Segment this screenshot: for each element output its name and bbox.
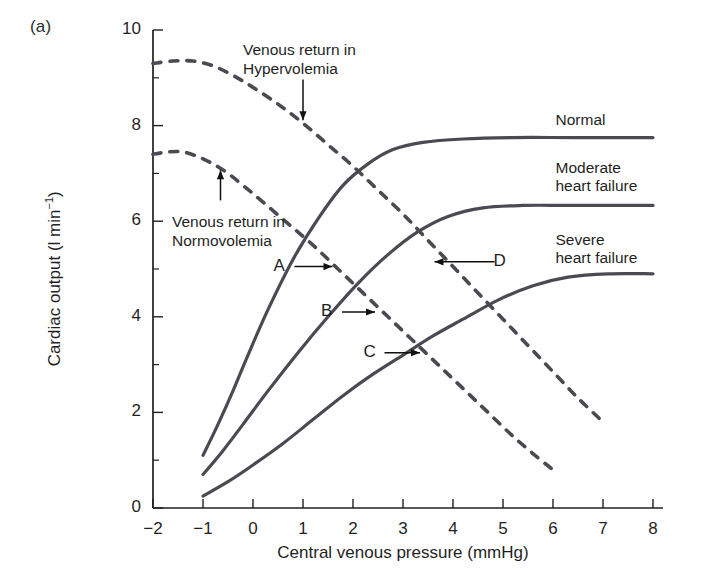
x-tick-label-4: 2: [338, 519, 368, 539]
annotation-label-B: B: [321, 301, 332, 321]
series-label-2: Severe heart failure: [556, 231, 638, 267]
annot-hyper-arrow-head: [299, 111, 306, 120]
series-label-1: Moderate heart failure: [556, 159, 638, 195]
x-axis-title: Central venous pressure (mmHg): [153, 543, 653, 563]
annotation-label-C: C: [364, 342, 376, 362]
annotation-label-D: D: [494, 251, 506, 271]
annot-A-arrow-head: [324, 263, 333, 270]
y-axis-title-exponent: −1: [43, 197, 55, 210]
x-tick-label-9: 7: [588, 519, 618, 539]
x-tick-label-3: 1: [288, 519, 318, 539]
series-label-0: Normal: [556, 111, 606, 129]
series-path-4: [153, 151, 553, 469]
annot-C-arrow-head: [411, 349, 420, 356]
venous-return-hypervolemia-label: Venous return in Hypervolemia: [243, 40, 356, 78]
annot-B-arrow-head: [366, 308, 375, 315]
x-tick-label-8: 6: [538, 519, 568, 539]
figure-panel: (a) Cardiac output (l min−1) Central ven…: [0, 0, 705, 582]
y-tick-label-5: 10: [111, 19, 141, 39]
axes: [153, 30, 663, 508]
x-tick-label-7: 5: [488, 519, 518, 539]
chart-canvas: [0, 0, 705, 582]
x-tick-label-10: 8: [638, 519, 668, 539]
venous-return-normovolemia-label: Venous return in Normovolemia: [172, 212, 285, 250]
y-tick-label-4: 8: [111, 115, 141, 135]
x-tick-label-0: −2: [138, 519, 168, 539]
x-tick-label-2: 0: [238, 519, 268, 539]
y-tick-label-0: 0: [111, 497, 141, 517]
x-tick-label-1: −1: [188, 519, 218, 539]
annotation-label-A: A: [274, 256, 285, 276]
x-tick-label-6: 4: [438, 519, 468, 539]
y-tick-label-3: 6: [111, 210, 141, 230]
x-tick-label-5: 3: [388, 519, 418, 539]
y-tick-label-1: 2: [111, 401, 141, 421]
y-axis-title: Cardiac output (l min−1): [43, 129, 65, 429]
annot-D-arrow-head: [435, 258, 444, 265]
y-axis-title-text: Cardiac output (l min: [45, 210, 64, 367]
y-axis-title-close: ): [45, 191, 64, 197]
y-tick-label-2: 4: [111, 306, 141, 326]
